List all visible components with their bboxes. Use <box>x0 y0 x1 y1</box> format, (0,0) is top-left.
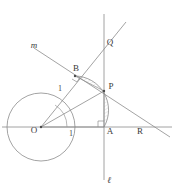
point-dot-O <box>40 126 42 128</box>
shaded-region <box>75 76 109 127</box>
label-Q: Q <box>107 37 114 47</box>
label-R: R <box>137 126 143 136</box>
right-angle-mark-at-A <box>98 121 104 127</box>
label-A: A <box>107 126 114 136</box>
shaded-region-outline <box>75 76 104 127</box>
point-dot-P <box>103 90 105 92</box>
label-line-m: m <box>31 40 38 50</box>
geometry-canvas: O A B P Q R m ℓ 1 1 <box>0 0 182 195</box>
geometry-figure: O A B P Q R m ℓ 1 1 <box>0 0 182 195</box>
label-P: P <box>108 81 113 91</box>
label-line-l: ℓ <box>107 175 111 185</box>
label-radius-OA: 1 <box>69 129 73 138</box>
point-dot-B <box>74 75 76 77</box>
label-B: B <box>73 63 79 73</box>
ray-O-through-B-to-Q <box>41 22 126 127</box>
label-O: O <box>31 125 38 135</box>
label-radius-OB: 1 <box>58 84 62 93</box>
segment-OP <box>41 91 104 127</box>
